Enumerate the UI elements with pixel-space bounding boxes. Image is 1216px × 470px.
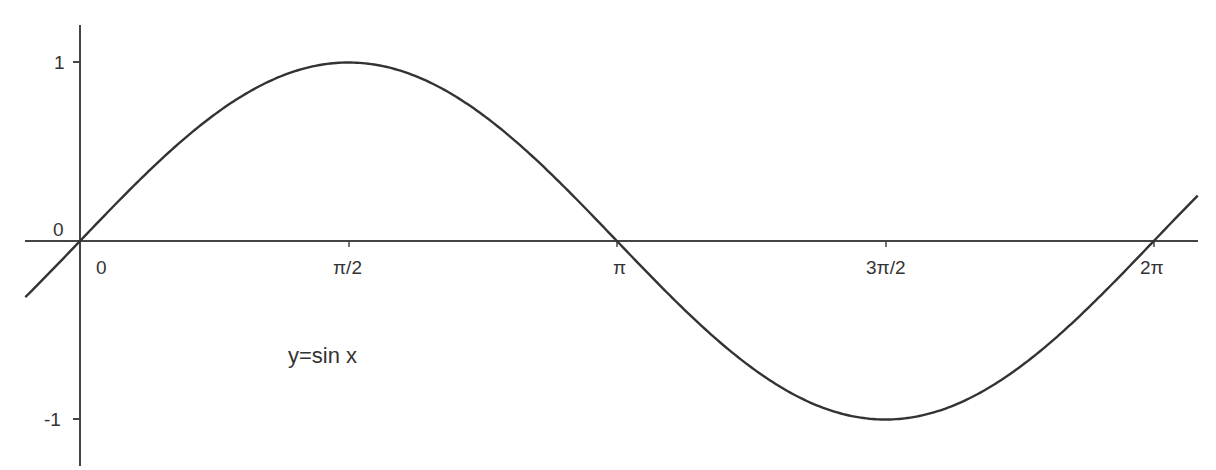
x-label-three-pi-half: 3π/2 (866, 257, 906, 278)
x-label-two-pi: 2π (1140, 257, 1164, 278)
y-label-0: 0 (53, 219, 64, 240)
function-label: y=sin x (288, 343, 357, 368)
y-label-neg-1: -1 (44, 409, 61, 430)
y-label-1: 1 (54, 52, 65, 73)
x-label-0: 0 (96, 257, 107, 278)
x-label-pi: π (613, 257, 626, 278)
x-label-pi-half: π/2 (333, 257, 362, 278)
sine-chart: 1 0 -1 0 π/2 π 3π/2 2π y=sin x (0, 0, 1216, 470)
